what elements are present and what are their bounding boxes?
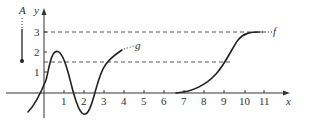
side-marker-a: A bbox=[18, 4, 26, 63]
curve-f-label: f bbox=[273, 25, 278, 37]
marker-label-a: A bbox=[18, 4, 26, 16]
svg-text:5: 5 bbox=[141, 95, 147, 107]
y-axis: y bbox=[33, 4, 47, 118]
curve-f: f bbox=[176, 25, 278, 93]
marker-dot bbox=[20, 59, 24, 63]
svg-text:1: 1 bbox=[61, 95, 67, 107]
svg-text:3: 3 bbox=[34, 26, 40, 38]
y-axis-label: y bbox=[33, 4, 39, 16]
x-axis-label: x bbox=[285, 95, 291, 107]
svg-text:2: 2 bbox=[34, 46, 40, 58]
curve-g-label: g bbox=[135, 39, 141, 51]
svg-text:6: 6 bbox=[161, 95, 167, 107]
svg-text:4: 4 bbox=[121, 95, 127, 107]
svg-text:1: 1 bbox=[34, 66, 40, 78]
svg-text:7: 7 bbox=[181, 95, 187, 107]
svg-text:3: 3 bbox=[101, 95, 107, 107]
svg-text:8: 8 bbox=[201, 95, 207, 107]
svg-text:10: 10 bbox=[239, 95, 251, 107]
y-axis-arrow-icon bbox=[42, 8, 47, 15]
y-tick-labels: 1 2 3 bbox=[34, 26, 40, 78]
svg-text:9: 9 bbox=[221, 95, 227, 107]
svg-text:11: 11 bbox=[259, 95, 270, 107]
svg-text:2: 2 bbox=[81, 95, 87, 107]
function-graph: A x y 1 2 3 4 5 6 7 8 9 10 11 bbox=[0, 0, 311, 123]
